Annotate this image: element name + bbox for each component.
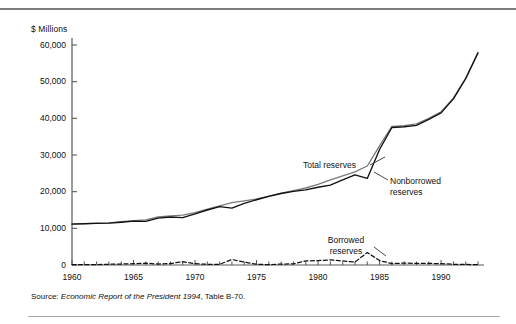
x-axis-tick-label: 1985 xyxy=(360,272,400,282)
nonborrowed-reserves-label: Nonborrowed reserves xyxy=(390,176,441,197)
y-axis-tick-label: 50,000 xyxy=(20,76,66,86)
chart-axes xyxy=(72,38,484,265)
bottom-divider-rule xyxy=(28,316,500,317)
y-axis-tick-label: 40,000 xyxy=(20,113,66,123)
chart-svg xyxy=(0,0,516,300)
source-prefix: Source: xyxy=(31,292,59,301)
x-axis-tick-label: 1965 xyxy=(114,272,154,282)
y-axis-tick-label: 30,000 xyxy=(20,150,66,160)
series-line xyxy=(72,52,478,224)
chart-tick-marks xyxy=(72,45,478,265)
borrowed-reserves-label: Borrowed reserves xyxy=(311,235,381,256)
annotation-leader-line xyxy=(374,172,388,180)
y-axis-tick-label: 10,000 xyxy=(20,223,66,233)
source-title: Economic Report of the President 1994 xyxy=(61,292,201,301)
x-axis-tick-label: 1970 xyxy=(175,272,215,282)
x-axis-tick-label: 1990 xyxy=(421,272,461,282)
figure-container: $ Millions 010,00020,00030,00040,00050,0… xyxy=(0,0,516,324)
y-axis-tick-label: 60,000 xyxy=(20,40,66,50)
total-reserves-label-text: Total reserves xyxy=(303,160,356,170)
source-note: Source: Economic Report of the President… xyxy=(31,292,245,301)
x-axis-tick-label: 1975 xyxy=(237,272,277,282)
nonborrowed-reserves-label-line1: Nonborrowed xyxy=(390,176,441,187)
chart-plot-area xyxy=(0,0,516,300)
source-suffix: , Table B-70. xyxy=(200,292,245,301)
y-axis-tick-label: 20,000 xyxy=(20,186,66,196)
series-line xyxy=(72,253,478,265)
chart-series-group xyxy=(72,52,478,264)
series-line xyxy=(72,53,478,224)
borrowed-reserves-label-line1: Borrowed xyxy=(311,235,381,246)
nonborrowed-reserves-label-line2: reserves xyxy=(390,187,441,198)
total-reserves-label: Total reserves xyxy=(303,160,356,171)
x-axis-tick-label: 1980 xyxy=(298,272,338,282)
x-axis-tick-label: 1960 xyxy=(52,272,92,282)
borrowed-reserves-label-line2: reserves xyxy=(311,246,381,257)
y-axis-tick-label: 0 xyxy=(20,260,66,270)
